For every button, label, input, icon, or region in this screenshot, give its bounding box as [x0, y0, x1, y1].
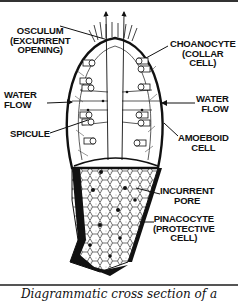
label-water-flow-left: WATER FLOW: [4, 90, 37, 109]
label-osculum: OSCULUM (EXCURRENT OPENING): [10, 26, 70, 55]
label-spicule: SPICULE: [10, 129, 50, 139]
label-water-flow-right: WATER FLOW: [196, 94, 229, 113]
label-incurrent-pore: INCURRENT PORE: [160, 186, 214, 205]
label-amoeboid-cell: AMOEBOID CELL: [178, 133, 229, 152]
caption-divider: [0, 284, 238, 286]
label-choanocyte: CHOANOCYTE (COLLAR CELL): [170, 39, 236, 68]
figure-caption: Diagrammatic cross section of a: [0, 287, 238, 301]
label-pinacocyte: PINACOCYTE (PROTECTIVE CELL): [153, 214, 215, 243]
